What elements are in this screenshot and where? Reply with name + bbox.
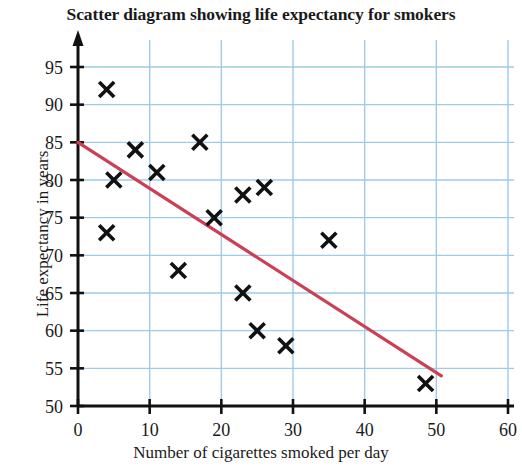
x-tick-label: 50 xyxy=(427,420,445,440)
data-point-marker xyxy=(99,225,114,240)
data-point-marker xyxy=(235,188,250,203)
data-point-marker xyxy=(278,338,293,353)
trend-line xyxy=(78,142,441,376)
line-of-best-fit xyxy=(78,142,441,376)
x-tick-label: 0 xyxy=(74,420,83,440)
data-point-marker xyxy=(321,233,336,248)
x-tick-label: 30 xyxy=(284,420,302,440)
x-axis-label: Number of cigarettes smoked per day xyxy=(0,443,522,463)
data-point-marker xyxy=(257,180,272,195)
x-tick-label: 40 xyxy=(356,420,374,440)
x-tick-label: 10 xyxy=(141,420,159,440)
data-point-marker xyxy=(171,263,186,278)
data-point-marker xyxy=(99,82,114,97)
scatter-chart-figure: Scatter diagram showing life expectancy … xyxy=(0,0,522,471)
y-tick-label: 95 xyxy=(45,58,63,78)
x-tick-label: 20 xyxy=(212,420,230,440)
y-axis-arrow-icon xyxy=(73,30,84,46)
data-point-marker xyxy=(418,376,433,391)
data-point-marker xyxy=(149,165,164,180)
y-tick-label: 50 xyxy=(45,397,63,417)
data-point-marker xyxy=(128,142,143,157)
y-axis-label: Life expectancy in years xyxy=(33,84,53,384)
gridlines xyxy=(78,40,514,406)
x-tick-label: 60 xyxy=(499,420,517,440)
plot-area: 50556065707580859095 0102030405060 xyxy=(0,0,522,471)
